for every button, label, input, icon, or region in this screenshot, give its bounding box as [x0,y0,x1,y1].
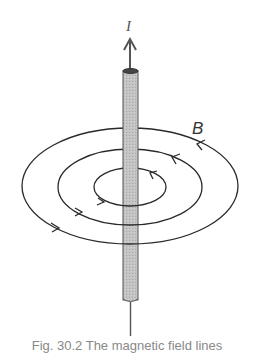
field-label: B [192,119,203,138]
figure-caption: Fig. 30.2 The magnetic field lines [0,338,254,353]
current-label: I [125,18,132,34]
wire [123,69,138,337]
current-arrow-icon [124,39,136,70]
